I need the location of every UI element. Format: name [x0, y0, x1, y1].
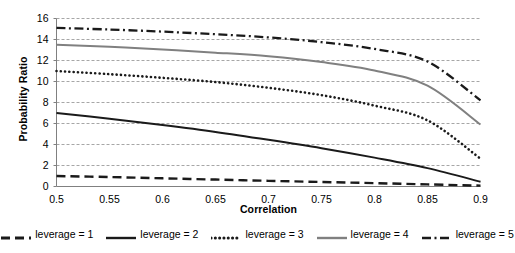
legend-swatch-icon	[1, 229, 31, 239]
legend-label: leverage = 3	[245, 228, 303, 240]
legend-item-leverage-1[interactable]: leverage = 1	[1, 228, 93, 240]
series-line-5	[57, 28, 481, 100]
legend-swatch-icon	[422, 229, 452, 239]
plot-area	[0, 0, 515, 253]
series-line-1	[57, 176, 481, 186]
legend-item-leverage-5[interactable]: leverage = 5	[422, 228, 514, 240]
legend-item-leverage-2[interactable]: leverage = 2	[106, 228, 198, 240]
legend-label: leverage = 4	[351, 228, 409, 240]
probability-ratio-line-chart: Probability Ratio Correlation 0246810121…	[0, 0, 515, 253]
legend-item-leverage-4[interactable]: leverage = 4	[317, 228, 409, 240]
series-line-3	[57, 71, 481, 159]
gridlines	[57, 19, 481, 166]
legend-label: leverage = 1	[35, 228, 93, 240]
legend: leverage = 1leverage = 2leverage = 3leve…	[0, 228, 515, 240]
legend-label: leverage = 5	[456, 228, 514, 240]
legend-label: leverage = 2	[140, 228, 198, 240]
legend-swatch-icon	[317, 229, 347, 239]
legend-item-leverage-3[interactable]: leverage = 3	[211, 228, 303, 240]
legend-swatch-icon	[106, 229, 136, 239]
legend-swatch-icon	[211, 229, 241, 239]
series-lines	[57, 28, 481, 186]
